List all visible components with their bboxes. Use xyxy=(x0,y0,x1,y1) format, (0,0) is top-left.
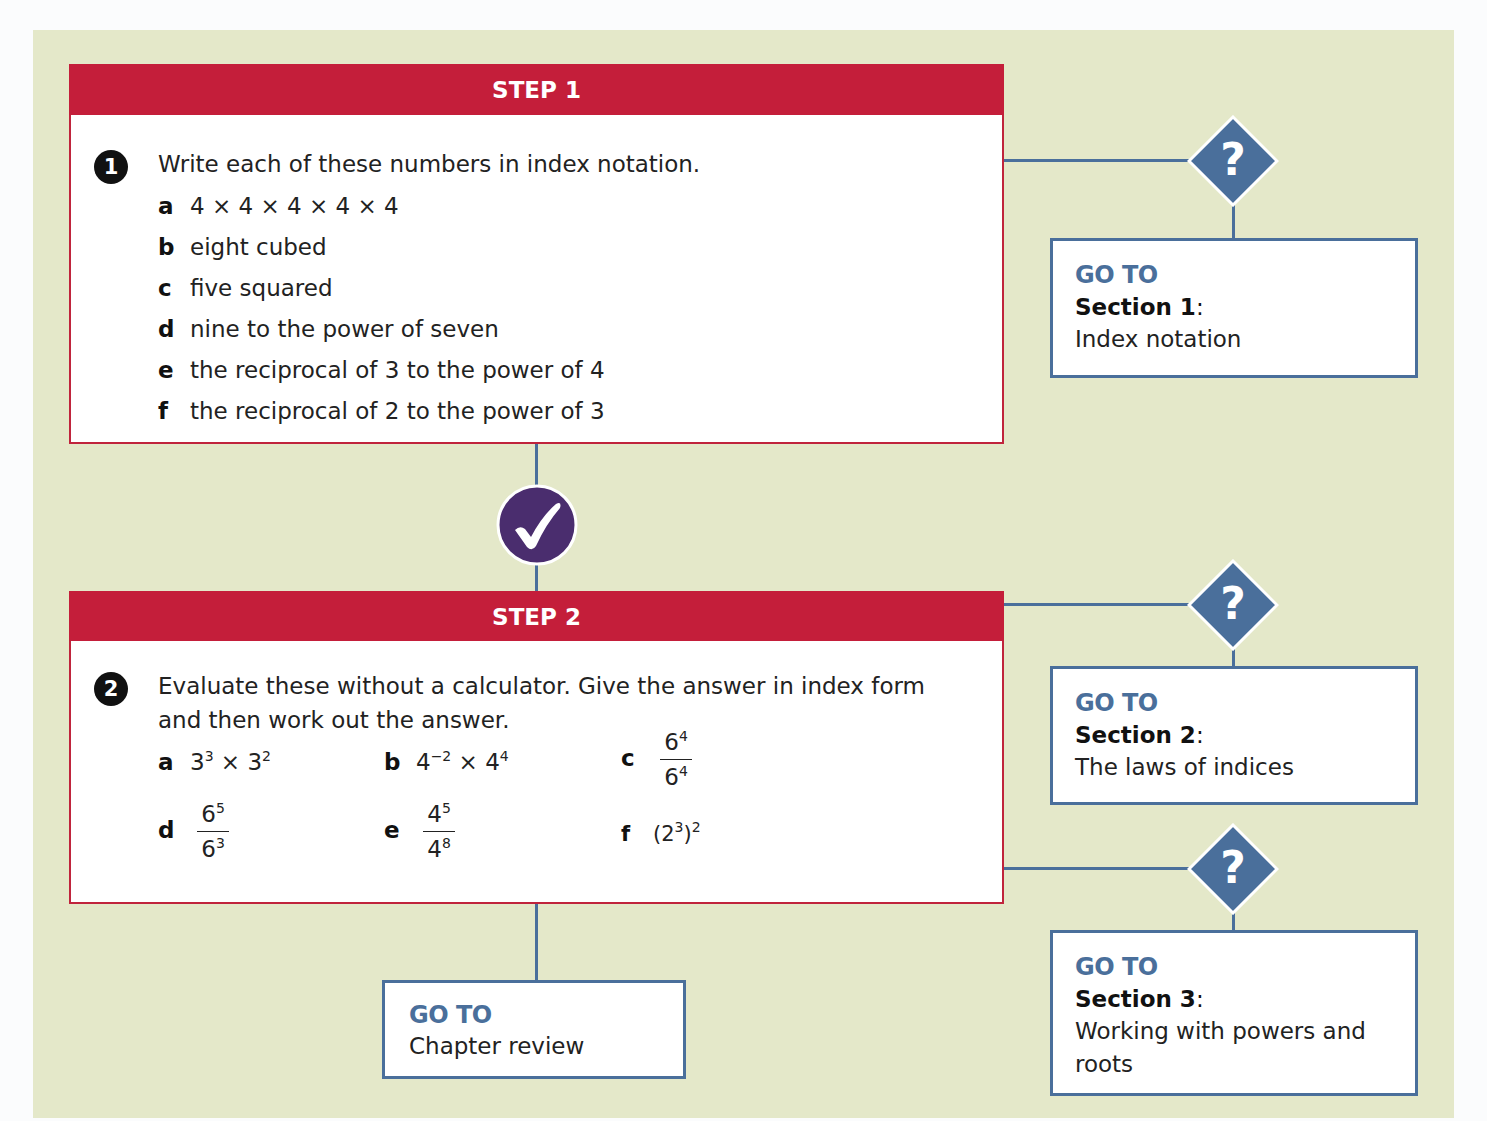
step1-item-f: fthe reciprocal of 2 to the power of 3 xyxy=(158,396,605,426)
step2-box: STEP 2 2 Evaluate these without a calcul… xyxy=(69,591,1004,904)
connector-step2-to-chapter-review xyxy=(535,903,538,983)
item-letter: c xyxy=(621,743,653,773)
question-diamond-icon: ? xyxy=(1187,115,1279,207)
base: 3 xyxy=(247,749,262,775)
connector-diamond2-to-goto2 xyxy=(1232,648,1235,668)
connector-diamond1-to-goto1 xyxy=(1232,205,1235,240)
numerator: 45 xyxy=(423,801,455,832)
step2-item-d: d 6563 xyxy=(158,801,229,862)
item-text: eight cubed xyxy=(190,234,327,260)
operator: × xyxy=(214,749,248,775)
step1-item-e: ethe reciprocal of 3 to the power of 4 xyxy=(158,355,605,385)
goto-label: GO TO xyxy=(1075,687,1415,719)
denominator: 48 xyxy=(423,832,455,862)
step2-prompt-line1: Evaluate these without a calculator. Giv… xyxy=(158,669,925,703)
numerator: 64 xyxy=(660,729,692,760)
item-text: five squared xyxy=(190,275,333,301)
connector-step2-to-diamond2 xyxy=(1003,603,1193,606)
item-letter: d xyxy=(158,815,190,845)
goto-section-name: Section 1: xyxy=(1075,291,1415,323)
step1-item-d: dnine to the power of seven xyxy=(158,314,499,344)
exponent: 4 xyxy=(500,748,509,764)
checkmark-circle-icon xyxy=(496,484,578,566)
base: 3 xyxy=(190,749,205,775)
svg-text:?: ? xyxy=(1220,578,1246,629)
item-text: the reciprocal of 2 to the power of 3 xyxy=(190,398,605,424)
svg-text:?: ? xyxy=(1220,842,1246,893)
base: 4 xyxy=(416,749,431,775)
item-letter: c xyxy=(158,273,190,303)
item-letter: f xyxy=(158,396,190,426)
goto-section-1[interactable]: GO TO Section 1: Index notation xyxy=(1050,238,1418,378)
exponent: 2 xyxy=(262,748,271,764)
fraction: 6563 xyxy=(197,801,229,862)
fraction: 4548 xyxy=(423,801,455,862)
item-letter: e xyxy=(384,815,416,845)
connector-diamond3-to-goto3 xyxy=(1232,912,1235,932)
item-letter: b xyxy=(158,232,190,262)
item-letter: d xyxy=(158,314,190,344)
question-number-1: 1 xyxy=(94,150,128,184)
step1-box: STEP 1 1 Write each of these numbers in … xyxy=(69,64,1004,444)
numerator: 65 xyxy=(197,801,229,832)
step2-item-b: b4−2 × 44 xyxy=(384,747,509,777)
exponent: 3 xyxy=(205,748,214,764)
question-diamond-icon: ? xyxy=(1187,823,1279,915)
goto-label: GO TO xyxy=(1075,951,1415,983)
chapter-review-title: Chapter review xyxy=(409,1031,683,1061)
step2-item-a: a33 × 32 xyxy=(158,747,271,777)
item-letter: a xyxy=(158,191,190,221)
base: 4 xyxy=(485,749,500,775)
item-letter: e xyxy=(158,355,190,385)
paren: ) xyxy=(683,822,691,846)
connector-step2-to-diamond3 xyxy=(1003,867,1193,870)
goto-section-2[interactable]: GO TO Section 2: The laws of indices xyxy=(1050,666,1418,805)
step1-prompt: Write each of these numbers in index not… xyxy=(158,147,700,181)
goto-label: GO TO xyxy=(1075,259,1415,291)
question-number-2: 2 xyxy=(94,672,128,706)
fraction: 6464 xyxy=(660,729,692,790)
step2-item-c: c 6464 xyxy=(621,729,692,790)
goto-section-title-line1: Working with powers and xyxy=(1075,1015,1415,1048)
goto-chapter-review[interactable]: GO TO Chapter review xyxy=(382,980,686,1079)
item-text: 4 × 4 × 4 × 4 × 4 xyxy=(190,193,399,219)
question-diamond-icon: ? xyxy=(1187,559,1279,651)
svg-text:?: ? xyxy=(1220,134,1246,185)
goto-section-title-line2: roots xyxy=(1075,1048,1415,1081)
goto-section-name: Section 2: xyxy=(1075,719,1415,751)
denominator: 64 xyxy=(660,760,692,790)
denominator: 63 xyxy=(197,832,229,862)
connector-step1-to-diamond1 xyxy=(1003,159,1193,162)
goto-section-title: Index notation xyxy=(1075,323,1415,356)
goto-label: GO TO xyxy=(409,999,683,1031)
operator: × xyxy=(451,749,485,775)
step1-item-b: beight cubed xyxy=(158,232,327,262)
goto-section-3[interactable]: GO TO Section 3: Working with powers and… xyxy=(1050,930,1418,1096)
item-text: nine to the power of seven xyxy=(190,316,499,342)
step2-item-e: e 4548 xyxy=(384,801,455,862)
item-letter: f xyxy=(621,819,653,849)
step2-prompt-line2: and then work out the answer. xyxy=(158,703,510,737)
goto-section-title: The laws of indices xyxy=(1075,751,1415,784)
goto-section-name: Section 3: xyxy=(1075,983,1415,1015)
base: (2 xyxy=(653,822,675,846)
step1-header: STEP 1 xyxy=(69,64,1004,115)
step2-header: STEP 2 xyxy=(69,591,1004,641)
step2-item-f: f(23)2 xyxy=(621,819,701,849)
exponent: −2 xyxy=(431,748,452,764)
item-letter: a xyxy=(158,747,190,777)
step1-item-a: a4 × 4 × 4 × 4 × 4 xyxy=(158,191,399,221)
item-text: the reciprocal of 3 to the power of 4 xyxy=(190,357,605,383)
item-letter: b xyxy=(384,747,416,777)
exponent: 2 xyxy=(692,819,701,835)
step1-item-c: cfive squared xyxy=(158,273,333,303)
